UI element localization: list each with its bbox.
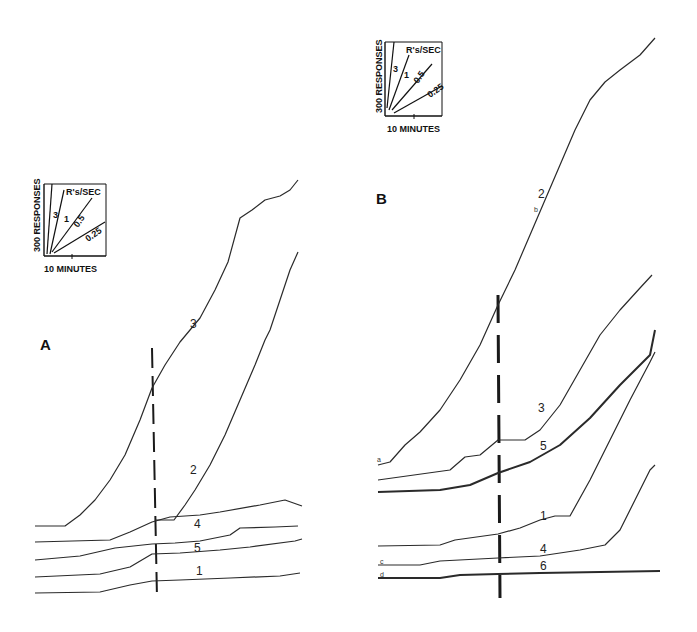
trace-label-b-3: 3	[538, 401, 545, 415]
key-b-x-label: 10 MINUTES	[387, 124, 440, 134]
trace-label-b-4: 4	[540, 542, 547, 556]
traces-panel-b: 235146	[378, 38, 660, 578]
key-b-rate-1: 1	[404, 70, 409, 80]
key-a-rate-0-25: 0.25	[83, 225, 103, 243]
letter-d: d	[380, 571, 384, 578]
trace-b-6	[378, 571, 660, 578]
key-a-rate-0-5: 0.5	[71, 213, 86, 229]
trace-b-4	[378, 465, 655, 565]
letter-a: a	[377, 456, 381, 463]
trace-b-5	[378, 330, 655, 492]
trace-a-5	[35, 526, 298, 560]
panel-a-label: A	[40, 336, 51, 353]
trace-label-b-6: 6	[540, 559, 547, 573]
trace-label-a-5: 5	[194, 541, 201, 555]
scale-key-a: 300 RESPONSES 10 MINUTES R's/SEC 3 1 0.5…	[32, 178, 106, 274]
key-a-rate-label: R's/SEC	[66, 187, 101, 197]
trace-b-3	[378, 275, 652, 480]
key-b-y-label: 300 RESPONSES	[374, 39, 384, 113]
trace-label-a-3: 3	[190, 317, 197, 331]
scale-key-b: 300 RESPONSES 10 MINUTES R's/SEC 3 1 0.5…	[374, 39, 446, 134]
panel-b-label: B	[376, 190, 387, 207]
trace-a-3	[35, 180, 298, 526]
dashed-marker-b	[498, 295, 500, 598]
trace-label-a-4: 4	[194, 517, 201, 531]
key-b-rate-3: 3	[393, 64, 398, 74]
trace-label-b-2: 2	[538, 187, 545, 201]
key-a-rate-1: 1	[64, 214, 69, 224]
trace-b-1	[378, 352, 655, 546]
trace-label-a-2: 2	[190, 463, 197, 477]
trace-label-a-1: 1	[196, 564, 203, 578]
key-a-y-label: 300 RESPONSES	[32, 178, 42, 252]
key-a-x-label: 10 MINUTES	[44, 264, 97, 274]
trace-b-2	[378, 38, 655, 465]
traces-panel-a: 32451	[35, 180, 302, 593]
key-b-rate-0-5: 0.5	[411, 69, 426, 85]
key-a-rate-3: 3	[53, 210, 58, 220]
trace-label-b-1: 1	[540, 509, 547, 523]
trace-label-b-5: 5	[540, 439, 547, 453]
letter-b: b	[534, 206, 538, 213]
letter-c: c	[380, 558, 384, 565]
key-b-rate-label: R's/SEC	[406, 45, 441, 55]
trace-a-baseline	[35, 573, 300, 593]
trace-a-1	[35, 539, 302, 577]
trace-a-2	[155, 252, 298, 520]
trace-a-4	[35, 500, 302, 542]
cumulative-record-figure: 300 RESPONSES 10 MINUTES R's/SEC 3 1 0.5…	[0, 0, 697, 632]
